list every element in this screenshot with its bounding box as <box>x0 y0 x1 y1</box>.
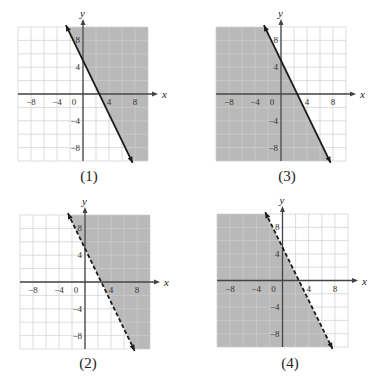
x-tick-label: −4 <box>252 284 262 294</box>
y-tick-label: 4 <box>78 250 83 260</box>
x-tick-label: −4 <box>54 285 64 295</box>
graph-1-caption: (1) <box>80 168 98 185</box>
x-axis-label: x <box>163 276 169 288</box>
x-tick-label: 4 <box>306 284 311 294</box>
graph-3-plot: xy−8−404884−4−8 <box>216 27 346 161</box>
y-tick-label: −8 <box>268 143 278 153</box>
y-tick-label: −4 <box>268 116 278 126</box>
graph-1-plot: xy−8−404884−4−8 <box>18 27 148 161</box>
x-tick-label: 0 <box>271 284 276 294</box>
x-tick-label: 8 <box>333 284 338 294</box>
y-axis-label: y <box>279 194 285 206</box>
x-tick-label: 8 <box>133 97 138 107</box>
x-tick-label: −4 <box>250 97 260 107</box>
y-axis-label: y <box>79 7 85 19</box>
x-axis-label: x <box>361 275 367 287</box>
y-tick-label: −4 <box>270 302 280 312</box>
y-tick-label: 8 <box>275 222 280 232</box>
y-tick-label: 4 <box>274 62 279 72</box>
x-tick-label: −8 <box>224 97 234 107</box>
x-tick-label: 0 <box>72 97 77 107</box>
graph-panel-1: xy−8−404884−4−8 <box>18 27 148 161</box>
y-tick-label: 8 <box>78 223 83 233</box>
graph-2-plot: xy−8−404884−4−8 <box>20 215 150 349</box>
y-axis-label: y <box>277 7 283 19</box>
x-tick-label: 4 <box>109 285 114 295</box>
graph-panel-3: xy−8−404884−4−8 <box>216 27 346 161</box>
y-tick-label: −8 <box>72 331 82 341</box>
graph-4-plot: xy−8−404884−4−8 <box>217 214 348 347</box>
graph-panel-2: xy−8−404884−4−8 <box>20 215 150 349</box>
x-tick-label: −8 <box>26 97 36 107</box>
graph-2-caption: (2) <box>79 355 97 372</box>
x-tick-label: 0 <box>74 285 79 295</box>
y-tick-label: 4 <box>275 249 280 259</box>
graph-4-caption: (4) <box>281 355 299 372</box>
x-tick-label: −8 <box>225 284 235 294</box>
y-axis-label: y <box>81 195 87 207</box>
graph-3-caption: (3) <box>278 168 296 185</box>
x-tick-label: −8 <box>28 285 38 295</box>
y-tick-label: 8 <box>274 35 279 45</box>
x-tick-label: 0 <box>270 97 275 107</box>
x-tick-label: 4 <box>107 97 112 107</box>
x-tick-label: −4 <box>52 97 62 107</box>
graph-panel-4: xy−8−404884−4−8 <box>217 214 348 347</box>
y-tick-label: −8 <box>70 143 80 153</box>
y-tick-label: 4 <box>76 62 81 72</box>
y-tick-label: 8 <box>76 35 81 45</box>
x-tick-label: 8 <box>331 97 336 107</box>
x-tick-label: 4 <box>305 97 310 107</box>
y-tick-label: −4 <box>72 304 82 314</box>
x-axis-label: x <box>359 88 365 100</box>
x-axis-label: x <box>161 88 167 100</box>
y-tick-label: −8 <box>270 329 280 339</box>
x-tick-label: 8 <box>135 285 140 295</box>
y-tick-label: −4 <box>70 116 80 126</box>
